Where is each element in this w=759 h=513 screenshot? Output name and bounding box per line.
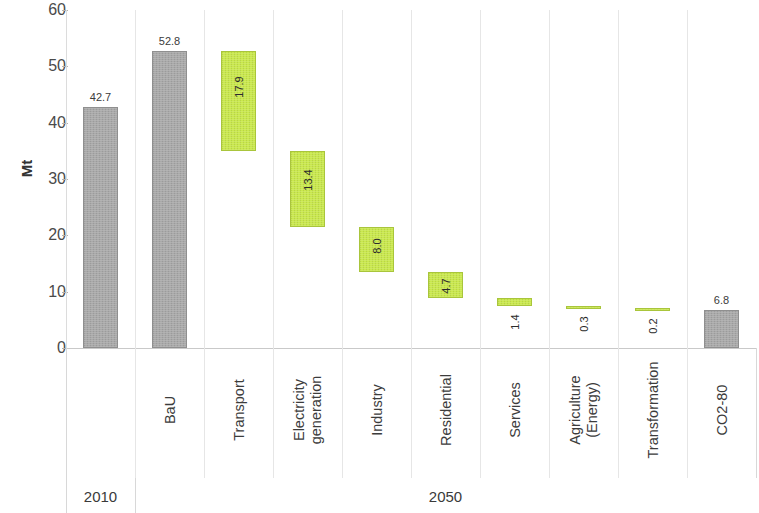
bar-bau[interactable] <box>152 51 187 348</box>
category-separator <box>411 10 412 478</box>
category-label: Industry <box>368 384 385 436</box>
bar-texture <box>222 52 255 151</box>
category-separator <box>687 10 688 478</box>
bar-transport[interactable] <box>221 51 256 152</box>
bar-services[interactable] <box>497 298 532 306</box>
period-separator <box>135 478 136 513</box>
bar-texture <box>705 311 738 347</box>
category-separator <box>618 10 619 478</box>
bar-texture <box>498 299 531 305</box>
y-tick-label: 30 <box>22 170 66 188</box>
period-label: 2050 <box>429 488 462 505</box>
bar-texture <box>636 309 669 310</box>
y-tick-label: 40 <box>22 114 66 132</box>
category-label: Services <box>506 382 523 438</box>
category-label: Agriculture (Energy) <box>567 375 601 444</box>
category-label: Electricity generation <box>291 376 325 445</box>
category-separator <box>756 348 757 478</box>
category-label: Residential <box>437 374 454 446</box>
category-label: CO2-80 <box>713 385 730 436</box>
category-label: Transport <box>230 379 247 441</box>
category-separator <box>204 10 205 478</box>
bar-texture <box>84 108 117 347</box>
bar-texture <box>153 52 186 347</box>
category-separator <box>549 10 550 478</box>
bar-transformation[interactable] <box>635 308 670 311</box>
y-tick-label: 50 <box>22 57 66 75</box>
category-separator <box>135 10 136 478</box>
bar-value-label: 42.7 <box>90 91 111 103</box>
bar-texture <box>567 307 600 308</box>
bar-value-label: 0.2 <box>647 318 659 333</box>
category-label: Transformation <box>644 362 661 459</box>
category-separator <box>273 10 274 478</box>
category-separator <box>480 10 481 478</box>
period-label: 2010 <box>84 488 117 505</box>
bar-value-label: 17.9 <box>233 76 245 97</box>
bar-value-label: 52.8 <box>159 35 180 47</box>
bar-value-label: 8.0 <box>371 239 383 254</box>
period-separator <box>66 478 67 513</box>
y-tick-label: 0 <box>22 339 66 357</box>
category-separator <box>342 10 343 478</box>
y-tick-label: 60 <box>22 1 66 19</box>
bar-value-label: 6.8 <box>714 294 729 306</box>
y-tick-label: 20 <box>22 226 66 244</box>
bar-2010[interactable] <box>83 107 118 348</box>
waterfall-chart: Mt 0102030405060 42.752.817.913.48.04.71… <box>0 0 759 513</box>
bar-value-label: 4.7 <box>440 278 452 293</box>
category-separator <box>66 348 67 478</box>
bar-value-label: 13.4 <box>302 169 314 190</box>
category-label: BaU <box>161 396 178 424</box>
bar-agriculture-energy[interactable] <box>566 306 601 309</box>
y-tick-label: 10 <box>22 283 66 301</box>
bar-co2-80[interactable] <box>704 310 739 348</box>
bar-value-label: 0.3 <box>578 316 590 331</box>
bar-value-label: 1.4 <box>509 315 521 330</box>
y-axis: 0102030405060 <box>0 0 66 513</box>
